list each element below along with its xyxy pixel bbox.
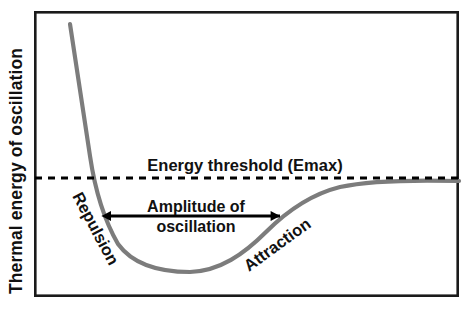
amplitude-label-line1: Amplitude of	[147, 198, 245, 215]
plot-frame	[35, 12, 457, 295]
amplitude-label-line2: oscillation	[156, 218, 235, 235]
y-axis-label: Thermal energy of oscillation	[6, 48, 26, 294]
potential-energy-diagram: Thermal energy of oscillation Energy thr…	[0, 0, 464, 310]
energy-threshold-label: Energy threshold (Emax)	[147, 156, 342, 174]
diagram-canvas: Thermal energy of oscillation Energy thr…	[0, 0, 464, 310]
